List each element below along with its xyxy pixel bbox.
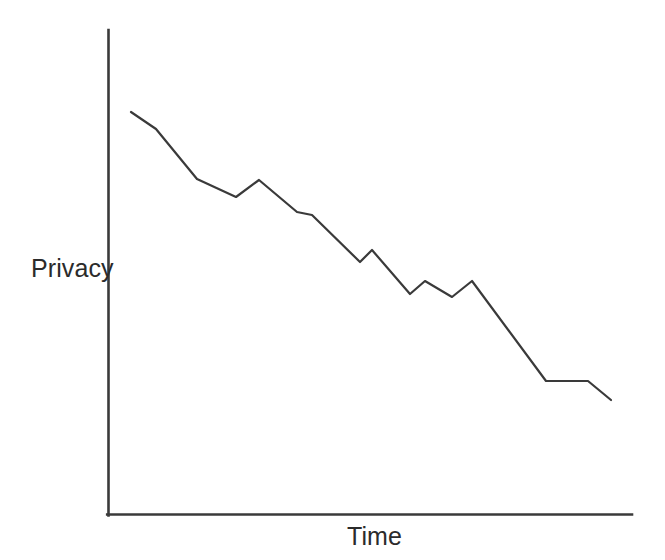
y-axis-label: Privacy (31, 256, 114, 281)
x-axis-label: Time (347, 524, 402, 549)
line-chart-figure: Privacy Time (0, 0, 665, 560)
